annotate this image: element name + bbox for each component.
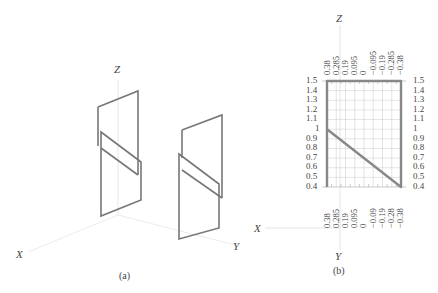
left-tick: 0.8 <box>306 143 317 152</box>
panel-b-caption: (b) <box>333 265 345 276</box>
left-tick: 1 <box>315 124 320 133</box>
left-tick: 0.6 <box>306 162 317 171</box>
panel-b-y-label: Y <box>335 250 341 262</box>
panel-a-caption: (a) <box>119 270 130 281</box>
panel-a-x-label: X <box>16 248 23 260</box>
panel-a-y-label: Y <box>233 240 239 252</box>
top-tick: −0.38 <box>395 55 405 75</box>
figure: Z X Y (a) Z X Y (b) 0.38 0.285 0.19 0.09… <box>0 0 438 293</box>
left-tick: 1.5 <box>306 76 317 85</box>
panel-b-z-label: Z <box>336 12 342 24</box>
left-tick: 0.5 <box>306 172 317 181</box>
panel-b-x-label: X <box>254 222 261 234</box>
bottom-tick: −0.38 <box>395 208 405 228</box>
right-tick: 0.4 <box>413 182 424 191</box>
left-tick: 1.1 <box>306 114 317 123</box>
panel-a-z-label: Z <box>114 63 120 75</box>
right-tick: 1.3 <box>413 95 424 104</box>
right-tick: 0.5 <box>413 172 424 181</box>
bottom-tick: 0 <box>358 224 368 228</box>
right-tick: 1 <box>413 124 418 133</box>
right-tick: 0.8 <box>413 143 424 152</box>
left-tick: 1.3 <box>306 95 317 104</box>
right-tick: 1.1 <box>413 114 424 123</box>
panel-b-drawing <box>0 0 438 293</box>
top-tick: 0 <box>358 71 368 75</box>
right-tick: 1.5 <box>413 76 424 85</box>
right-tick: 0.6 <box>413 162 424 171</box>
left-tick: 0.4 <box>306 182 317 191</box>
